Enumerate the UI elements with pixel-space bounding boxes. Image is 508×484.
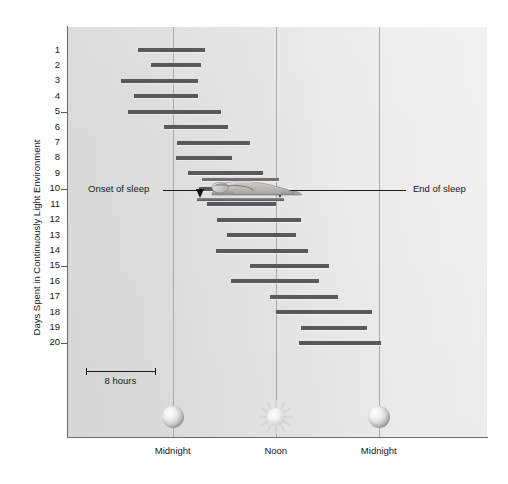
x-axis-line <box>67 437 488 438</box>
sleep-bar-day-6 <box>164 125 228 129</box>
moon-icon <box>368 406 390 428</box>
scale-bar-label: 8 hours <box>105 375 137 386</box>
scale-bar-cap-right <box>155 368 156 375</box>
sleep-bar-day-5 <box>128 110 221 114</box>
sleep-bar-day-7 <box>177 141 250 145</box>
annotation-label-onset-of-sleep: Onset of sleep <box>88 183 149 194</box>
sleep-bar-day-8 <box>176 156 232 160</box>
sleep-bar-day-17 <box>270 295 338 299</box>
bed-top-edge <box>202 178 279 181</box>
annotation-leader-onset-of-sleep <box>163 190 200 191</box>
sleep-bar-day-14 <box>216 249 309 253</box>
gridline-midnight-0 <box>173 27 174 437</box>
sleep-bar-day-19 <box>301 326 367 330</box>
gridline-midnight-2 <box>379 27 380 437</box>
sleep-bar-day-3 <box>121 79 198 83</box>
sleep-bar-day-2 <box>151 63 201 67</box>
y-tick-15 <box>61 266 68 267</box>
y-tick-label-2: 2 <box>38 60 60 70</box>
gridline-noon-1 <box>276 27 277 437</box>
bed-base <box>197 198 284 201</box>
actogram-figure: 1234567891011121314151617181920 Days Spe… <box>0 0 508 484</box>
y-tick-label-1: 1 <box>38 45 60 55</box>
sleep-bar-day-15 <box>250 264 329 268</box>
y-tick-20 <box>61 343 68 344</box>
sun-icon <box>259 400 293 434</box>
x-tick-label-midnight-2: Midnight <box>361 445 397 456</box>
y-axis-line <box>67 26 68 438</box>
moon-icon <box>162 406 184 428</box>
y-tick-label-3: 3 <box>38 75 60 85</box>
y-tick-10 <box>61 189 68 190</box>
sleep-bar-day-4 <box>134 94 198 98</box>
annotation-label-end-of-sleep: End of sleep <box>413 183 466 194</box>
x-tick-label-midnight-0: Midnight <box>155 445 191 456</box>
sleep-bar-day-1 <box>138 48 205 52</box>
sleep-bar-day-13 <box>227 233 297 237</box>
sleep-bar-day-12 <box>217 218 301 222</box>
x-tick-label-noon-1: Noon <box>264 445 287 456</box>
sleep-bar-day-16 <box>231 279 319 283</box>
sleep-bar-day-18 <box>276 310 372 314</box>
sleep-bar-day-20 <box>299 341 381 345</box>
scale-bar-cap-left <box>86 368 87 375</box>
scale-bar-line <box>86 371 155 372</box>
y-axis-title: Days Spent in Continuously Light Environ… <box>31 93 42 383</box>
y-tick-5 <box>61 112 68 113</box>
